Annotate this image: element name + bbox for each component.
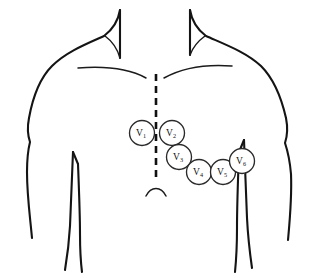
neck-left-muscle-line — [105, 36, 120, 58]
electrode-v2[interactable]: V2 — [160, 121, 185, 146]
clavicle-right-line — [164, 66, 232, 79]
neck-right-muscle-line — [190, 36, 205, 55]
shoulder-right-outline — [190, 10, 286, 118]
clavicle-left-line — [78, 67, 146, 78]
electrode-v1[interactable]: V1 — [130, 121, 155, 146]
electrode-layer: V1V2V3V4V5V6 — [130, 121, 255, 185]
torso-diagram-svg: V1V2V3V4V5V6 — [0, 0, 323, 278]
torso-left-flank — [78, 164, 82, 272]
arm-left-outer-outline — [27, 118, 32, 238]
shoulder-left-outline — [29, 10, 120, 118]
xiphoid-arch-line — [146, 189, 166, 197]
arm-left-inner-outline — [65, 152, 73, 270]
arm-right-outer-outline — [285, 118, 291, 240]
ecg-electrode-placement-diagram: V1V2V3V4V5V6 — [0, 0, 323, 278]
electrode-v6[interactable]: V6 — [230, 149, 255, 174]
electrode-v4[interactable]: V4 — [187, 160, 212, 185]
